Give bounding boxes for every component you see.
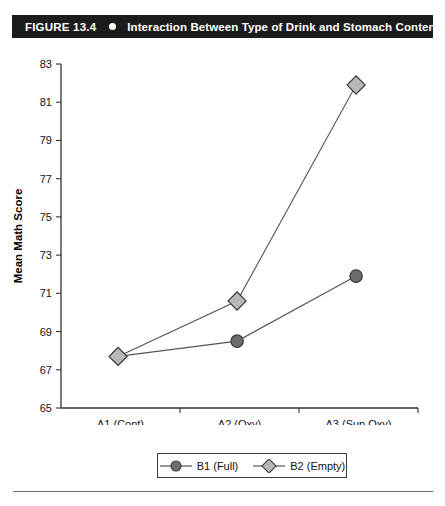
- legend-item-b1: B1 (Full): [159, 459, 239, 473]
- diamond-marker-icon: [252, 459, 286, 473]
- x-tick-label: A3 (Sup Oxy): [325, 418, 391, 425]
- chart-plot-area: 65676971737577798183 A1 (Cont)A2 (Oxy)A3…: [0, 45, 445, 425]
- data-point-circle: [350, 270, 362, 282]
- y-axis-tick-marks: [56, 64, 61, 408]
- circle-marker-icon: [159, 459, 193, 473]
- x-axis-tick-labels: A1 (Cont)A2 (Oxy)A3 (Sup Oxy): [97, 418, 392, 425]
- y-tick-label: 83: [40, 58, 52, 70]
- data-point-diamond: [109, 347, 127, 365]
- filled-circle-icon: [109, 23, 116, 30]
- y-tick-label: 65: [40, 402, 52, 414]
- data-point-circle: [231, 335, 243, 347]
- x-axis-tick-marks: [180, 408, 418, 413]
- x-tick-label: A1 (Cont): [97, 418, 144, 425]
- legend-item-b2: B2 (Empty): [252, 459, 345, 473]
- series-markers-group: [109, 76, 365, 366]
- bottom-divider: [13, 491, 433, 492]
- figure-header-bar: FIGURE 13.4 Interaction Between Type of …: [12, 15, 433, 38]
- series-lines-group: [118, 85, 356, 356]
- figure-number: FIGURE 13.4: [25, 21, 96, 33]
- y-axis-tick-labels: 65676971737577798183: [40, 58, 52, 414]
- line-chart-svg: 65676971737577798183 A1 (Cont)A2 (Oxy)A3…: [0, 45, 445, 425]
- y-axis-title: Mean Math Score: [12, 189, 24, 284]
- y-tick-label: 71: [40, 287, 52, 299]
- data-point-diamond: [228, 292, 246, 310]
- y-tick-label: 79: [40, 134, 52, 146]
- legend-label-b1: B1 (Full): [197, 460, 239, 472]
- data-point-diamond: [347, 76, 365, 94]
- y-tick-label: 81: [40, 96, 52, 108]
- y-tick-label: 75: [40, 211, 52, 223]
- legend-label-b2: B2 (Empty): [290, 460, 345, 472]
- y-tick-label: 77: [40, 173, 52, 185]
- y-tick-label: 69: [40, 326, 52, 338]
- x-tick-label: A2 (Oxy): [218, 418, 261, 425]
- chart-legend: B1 (Full) B2 (Empty): [157, 453, 347, 478]
- figure-title: Interaction Between Type of Drink and St…: [127, 21, 439, 33]
- y-tick-label: 73: [40, 249, 52, 261]
- y-tick-label: 67: [40, 364, 52, 376]
- series-line-2: [118, 85, 356, 356]
